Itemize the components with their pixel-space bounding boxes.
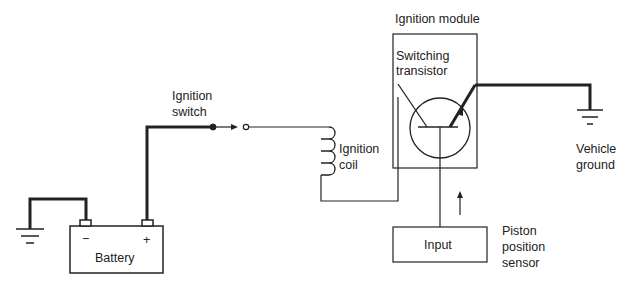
piston-sensor-label-line1: Piston <box>502 224 537 238</box>
ignition-switch <box>210 124 249 130</box>
switching-transistor-label-line1: Switching <box>396 49 450 63</box>
switching-transistor-label-line2: transistor <box>396 64 447 78</box>
signal-arrow-icon <box>457 191 463 215</box>
negative-wire <box>30 199 86 229</box>
switching-transistor <box>398 84 475 227</box>
ignition-circuit-diagram: − + Battery Ignition switch Ignition coi… <box>0 0 630 285</box>
ignition-module-label: Ignition module <box>395 12 480 26</box>
input-label: Input <box>424 238 452 252</box>
vehicle-ground-label-line2: ground <box>576 158 615 172</box>
battery-label: Battery <box>95 251 135 265</box>
ignition-coil-label-line2: coil <box>339 158 358 172</box>
ignition-coil-label-line1: Ignition <box>339 142 379 156</box>
vehicle-ground-symbol <box>577 110 603 124</box>
ground-wire <box>475 85 590 110</box>
battery-ground-symbol <box>16 229 44 243</box>
vehicle-ground-label-line1: Vehicle <box>576 142 616 156</box>
battery-positive-label: + <box>143 233 150 247</box>
ignition-switch-label-line1: Ignition <box>172 89 212 103</box>
battery-negative-label: − <box>82 232 89 246</box>
positive-wire <box>147 127 213 220</box>
ignition-coil <box>321 127 335 175</box>
piston-sensor-label-line2: position <box>502 240 545 254</box>
piston-sensor-label-line3: sensor <box>502 256 540 270</box>
ignition-switch-label-line2: switch <box>172 105 207 119</box>
